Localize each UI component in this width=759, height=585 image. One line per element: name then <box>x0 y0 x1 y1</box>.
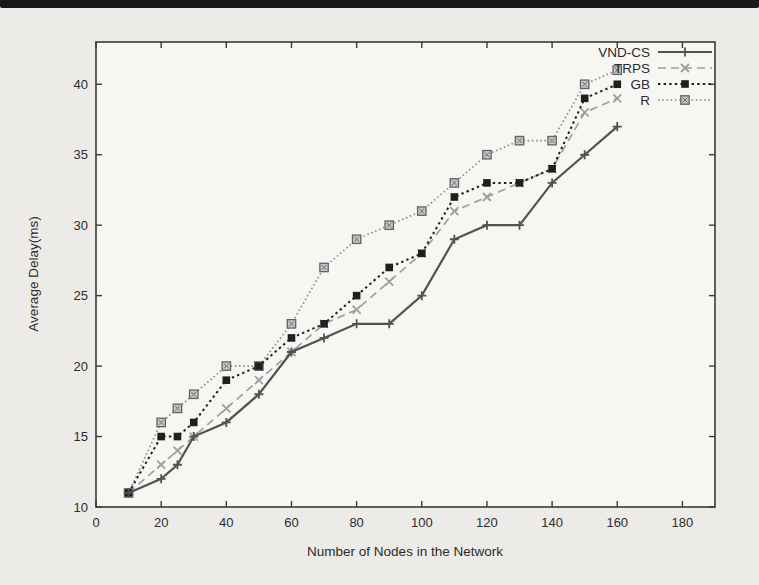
x-tick-label: 120 <box>476 515 498 530</box>
series-gb-square-marker <box>385 264 393 272</box>
y-tick-label: 35 <box>74 147 88 162</box>
legend-label-trps: TRPS <box>614 61 650 76</box>
series-gb-square-marker <box>516 179 524 187</box>
legend-label-vnd-cs: VND-CS <box>598 45 650 60</box>
x-tick-label: 0 <box>92 515 99 530</box>
x-tick-label: 60 <box>284 515 298 530</box>
x-tick-label: 40 <box>219 515 233 530</box>
series-gb-square-marker <box>451 193 459 201</box>
series-gb-square-marker <box>255 362 263 370</box>
y-tick-label: 25 <box>74 288 88 303</box>
plot-frame <box>96 42 715 507</box>
series-gb-square-marker <box>581 95 589 103</box>
y-tick-label: 30 <box>74 218 88 233</box>
y-tick-label: 15 <box>74 429 88 444</box>
series-gb-square-marker <box>548 165 556 173</box>
legend-label-gb: GB <box>630 77 650 92</box>
y-axis-label: Average Delay(ms) <box>26 216 41 331</box>
x-tick-label: 160 <box>606 515 628 530</box>
x-tick-label: 20 <box>154 515 168 530</box>
series-gb-square-marker <box>418 250 426 258</box>
series-gb-square-marker <box>353 292 361 300</box>
delay-chart: 02040608010012014016018010152025303540VN… <box>0 0 759 585</box>
scanned-page: 02040608010012014016018010152025303540VN… <box>0 0 759 585</box>
x-tick-label: 100 <box>411 515 433 530</box>
delay-vs-nodes-figure: 02040608010012014016018010152025303540VN… <box>0 0 759 585</box>
series-gb-square-marker <box>320 320 328 328</box>
series-gb-square-marker <box>174 433 182 441</box>
x-tick-label: 140 <box>541 515 563 530</box>
series-gb-square-marker <box>190 419 198 427</box>
series-gb-square-marker <box>483 179 491 187</box>
y-tick-label: 10 <box>74 500 88 515</box>
series-gb-square-marker <box>157 433 165 441</box>
series-gb-square-marker <box>223 376 231 384</box>
x-tick-label: 80 <box>349 515 363 530</box>
legend-gb-square-marker <box>681 80 689 88</box>
series-gb-square-marker <box>613 80 621 88</box>
y-tick-label: 20 <box>74 359 88 374</box>
y-tick-label: 40 <box>74 77 88 92</box>
x-axis-label: Number of Nodes in the Network <box>307 544 503 559</box>
x-tick-label: 180 <box>672 515 694 530</box>
series-gb-square-marker <box>288 334 296 342</box>
legend-label-r: R <box>640 93 650 108</box>
